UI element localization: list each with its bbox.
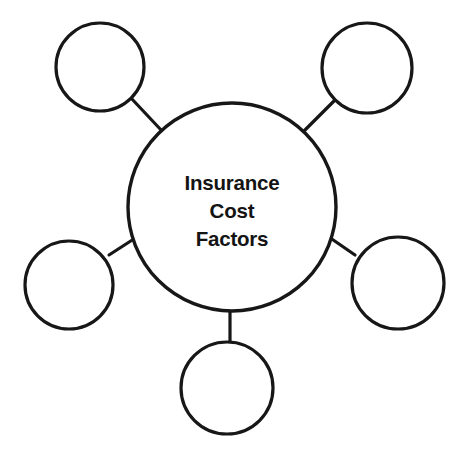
connector-top-left: [131, 98, 162, 131]
central-label-line-3: Factors: [196, 227, 269, 250]
central-node-group: Insurance Cost Factors: [128, 103, 336, 311]
satellite-top-right[interactable]: [322, 23, 412, 113]
satellite-left[interactable]: [25, 241, 113, 329]
diagram-canvas: Insurance Cost Factors: [0, 0, 462, 453]
central-label-line-1: Insurance: [184, 171, 279, 194]
satellite-right[interactable]: [352, 237, 444, 329]
cluster-diagram: Insurance Cost Factors: [0, 0, 462, 453]
satellite-top-left[interactable]: [56, 23, 144, 111]
central-label-line-2: Cost: [210, 199, 255, 222]
connector-top-right: [303, 100, 335, 132]
satellite-bottom[interactable]: [181, 342, 273, 434]
